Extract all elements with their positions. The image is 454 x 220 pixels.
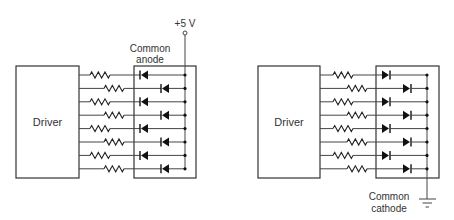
driver-label-right: Driver [274,116,304,128]
junction-dot [425,127,428,130]
junction-dot [425,154,428,157]
junction-dot [425,87,428,90]
resistor-icon [333,126,353,132]
resistor-icon [347,139,367,145]
supply-label: +5 V [175,18,196,29]
resistor-icon [333,152,353,158]
common-cathode-circuit: Driver Common cathode [258,66,439,214]
resistor-icon [333,99,353,105]
common-anode-module [134,66,196,178]
junction-dot [425,114,428,117]
supply-terminal [183,31,187,35]
module-label-line2-right: cathode [371,203,407,214]
resistor-icon [90,152,110,158]
junction-dot [425,140,428,143]
driver-label-left: Driver [33,116,63,128]
resistor-icon [90,72,110,78]
junction-dot [183,140,186,143]
led-driver-diagram: Driver +5 V Common anode Driver Common c… [0,0,454,220]
junction-dot [425,100,428,103]
resistor-icon [104,166,124,172]
resistor-icon [347,166,367,172]
junction-dot [183,73,186,76]
resistor-icon [104,85,124,91]
junction-dot [425,167,428,170]
junction-dot [183,127,186,130]
resistor-icon [104,112,124,118]
module-label-line2-left: anode [136,54,164,65]
junction-dot [183,167,186,170]
junction-dot [425,73,428,76]
module-label-line1-left: Common [130,43,171,54]
resistor-icon [347,85,367,91]
junction-dot [183,100,186,103]
common-anode-circuit: Driver +5 V Common anode [16,18,196,178]
module-label-line1-right: Common [369,191,410,202]
resistor-icon [333,72,353,78]
junction-dot [183,154,186,157]
common-cathode-module [376,66,439,178]
resistor-icon [347,112,367,118]
junction-dot [183,87,186,90]
resistor-icon [90,126,110,132]
junction-dot [183,114,186,117]
resistor-icon [104,139,124,145]
ground-icon [419,199,436,207]
resistor-icon [90,99,110,105]
